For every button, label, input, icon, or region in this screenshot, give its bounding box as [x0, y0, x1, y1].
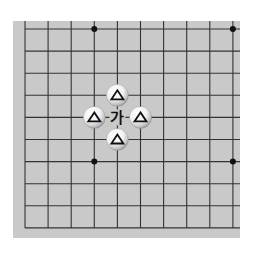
- star-point-icon: [230, 26, 236, 32]
- white-stone: [130, 106, 152, 128]
- point-label: 가: [110, 109, 124, 127]
- white-stone: [106, 129, 128, 151]
- stone-body: [106, 84, 128, 106]
- point-labels: 가: [109, 109, 125, 127]
- stone-body: [83, 106, 105, 128]
- star-point-icon: [91, 26, 97, 32]
- white-stone: [106, 84, 128, 106]
- stone-body: [106, 129, 128, 151]
- white-stone: [83, 106, 105, 128]
- star-point-icon: [91, 159, 97, 165]
- stone-body: [130, 106, 152, 128]
- board-grid: 가: [0, 0, 255, 256]
- star-point-icon: [230, 159, 236, 165]
